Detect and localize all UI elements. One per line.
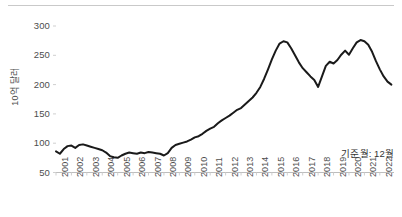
chart-container: 10억 달러 50100150200250300 200120022003200…: [0, 0, 402, 217]
base-month-annotation: 기준월: 12월: [341, 146, 394, 160]
data-line-series: [56, 40, 391, 158]
plot-area: [0, 0, 402, 217]
